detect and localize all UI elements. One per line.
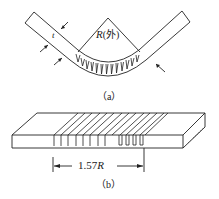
radius-label: R(外) [96, 26, 119, 41]
bar-front-face [12, 135, 183, 148]
dimension-radius-symbol: R [97, 159, 104, 171]
caption-b: （b） [96, 176, 121, 191]
caption-a: （a） [97, 88, 121, 103]
radius-symbol: R [96, 28, 103, 40]
bar-end-face [183, 113, 205, 148]
radius-qualifier: (外) [103, 29, 120, 40]
thickness-label: t [52, 30, 55, 40]
grooves [54, 113, 168, 146]
dimension-label: 1.57R [78, 159, 104, 171]
